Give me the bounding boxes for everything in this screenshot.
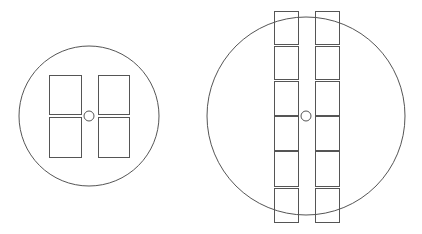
die-rect [316,12,340,45]
die-rect [275,152,299,187]
die-rect [99,76,130,115]
diagram-canvas [0,0,422,234]
die-rect [99,118,130,158]
small-wafer [19,46,159,186]
die-rect [316,82,340,116]
die-rect [316,189,340,223]
die-rect [275,189,299,223]
die-rect [275,82,299,116]
die-rect [275,12,299,45]
die-rect [50,118,82,158]
die-rect [275,117,299,151]
die-rect [316,152,340,187]
die-rect [316,117,340,151]
die-rect [50,76,82,115]
die-rect [275,47,299,80]
large-wafer [207,12,405,223]
center-hole [84,111,94,121]
center-hole [301,111,311,121]
die-rect [316,47,340,80]
